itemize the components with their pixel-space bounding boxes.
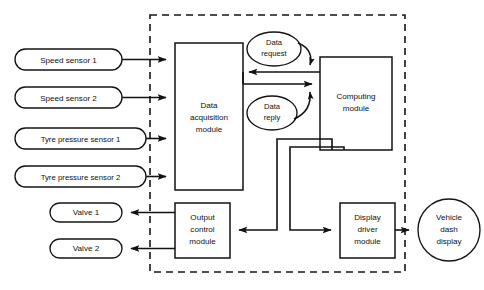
- node-data-acquisition-module[interactable]: Data acquisition module: [175, 43, 243, 190]
- data-request-label-line1: Data: [266, 38, 283, 47]
- node-valve-2[interactable]: Valve 2: [50, 239, 122, 258]
- data-acquisition-module-label-line3: module: [196, 125, 223, 134]
- data-acquisition-module-label-line1: Data: [200, 101, 218, 110]
- tyre-pressure-sensor-2-label: Tyre pressure sensor 2: [41, 173, 121, 182]
- data-reply-label-line2: reply: [264, 113, 281, 122]
- display-driver-module-label-line1: Display: [354, 213, 381, 222]
- node-vehicle-dash-display[interactable]: Vehicle dash display: [418, 199, 480, 261]
- tyre-pressure-sensor-1-label: Tyre pressure sensor 1: [41, 135, 121, 144]
- connector-computing-to-display-driver: [290, 147, 344, 230]
- node-tyre-pressure-sensor-2[interactable]: Tyre pressure sensor 2: [15, 166, 146, 187]
- vehicle-dash-display-label-line2: dash: [440, 225, 458, 234]
- computing-module-label-line1: Computing: [336, 92, 375, 101]
- node-data-request[interactable]: Data request: [247, 32, 301, 66]
- node-valve-1[interactable]: Valve 1: [50, 203, 122, 222]
- output-control-module-label-line3: module: [189, 237, 216, 246]
- computing-module-label-line2: module: [343, 104, 370, 113]
- output-control-module-label-line2: control: [190, 225, 214, 234]
- speed-sensor-1-label: Speed sensor 1: [40, 56, 97, 65]
- output-control-module-label-line1: Output: [190, 213, 215, 222]
- node-tyre-pressure-sensor-1[interactable]: Tyre pressure sensor 1: [15, 128, 146, 149]
- vehicle-dash-display-label-line1: Vehicle: [436, 213, 463, 222]
- valve-1-label: Valve 1: [73, 208, 100, 217]
- node-speed-sensor-1[interactable]: Speed sensor 1: [15, 49, 122, 70]
- speed-sensor-2-label: Speed sensor 2: [40, 94, 97, 103]
- data-request-label-line2: request: [261, 49, 287, 58]
- data-acquisition-module-label-line2: acquisition: [190, 113, 228, 122]
- valve-2-label: Valve 2: [73, 244, 100, 253]
- connector-computing-to-output-control: [239, 139, 332, 230]
- data-reply-label-line1: Data: [264, 102, 281, 111]
- vehicle-dash-display-label-line3: display: [436, 237, 462, 246]
- node-speed-sensor-2[interactable]: Speed sensor 2: [15, 87, 122, 108]
- display-driver-module-label-line2: driver: [357, 225, 378, 234]
- node-computing-module[interactable]: Computing module: [320, 57, 392, 150]
- block-diagram: Speed sensor 1 Speed sensor 2 Tyre press…: [0, 0, 484, 290]
- node-display-driver-module[interactable]: Display driver module: [340, 203, 395, 258]
- node-data-reply[interactable]: Data reply: [247, 96, 297, 130]
- display-driver-module-label-line3: module: [354, 237, 381, 246]
- diagram-canvas: Speed sensor 1 Speed sensor 2 Tyre press…: [0, 0, 484, 290]
- node-output-control-module[interactable]: Output control module: [175, 203, 230, 258]
